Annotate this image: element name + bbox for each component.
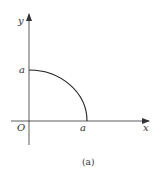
y-axis-label: y — [17, 15, 24, 26]
quarter-arc-curve — [29, 70, 87, 121]
y-intercept-label: a — [19, 64, 25, 75]
diagram-canvas: y a O a x (a) — [0, 0, 161, 179]
x-intercept-label: a — [80, 122, 86, 133]
figure-caption: (a) — [82, 157, 94, 167]
origin-label: O — [17, 122, 25, 133]
x-axis-label: x — [143, 122, 149, 133]
